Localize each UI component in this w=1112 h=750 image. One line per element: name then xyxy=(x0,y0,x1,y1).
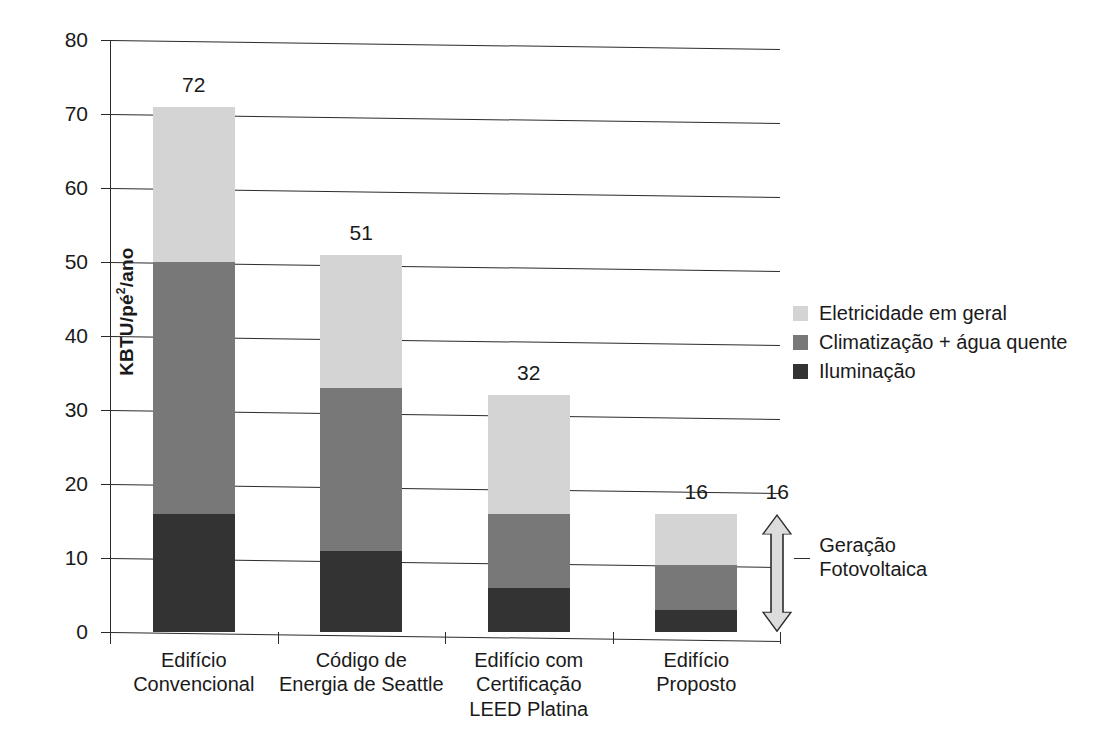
pv-tick-mark xyxy=(794,558,810,559)
category-label-line: LEED Platina xyxy=(434,697,624,721)
plot-area: 72513216 EdifícioConvencionalCódigo deEn… xyxy=(110,40,780,632)
chart-canvas: KBTU/pé2/ano 01020304050607080 72513216 … xyxy=(0,0,1112,750)
bar-segment[interactable] xyxy=(488,395,570,513)
y-axis-tick xyxy=(101,336,110,337)
legend-item[interactable]: Iluminação xyxy=(793,361,1068,381)
bar-segment[interactable] xyxy=(655,514,737,566)
stacked-bar[interactable] xyxy=(655,514,737,632)
category-label-line: Proposto xyxy=(601,672,791,696)
stacked-bar[interactable] xyxy=(488,395,570,632)
stacked-bar[interactable] xyxy=(320,255,402,632)
x-axis-category-label: Edifício comCertificaçãoLEED Platina xyxy=(434,648,624,721)
legend-color-swatch xyxy=(793,306,808,321)
y-axis-tick-label: 80 xyxy=(28,29,88,50)
gridline xyxy=(110,40,780,50)
x-axis-tick xyxy=(613,632,614,644)
legend-item-label: Climatização + água quente xyxy=(819,332,1068,352)
y-axis-tick xyxy=(101,558,110,559)
bar-segment[interactable] xyxy=(488,514,570,588)
category-label-line: Energia de Seattle xyxy=(266,672,456,696)
y-axis-tick-label: 0 xyxy=(28,621,88,642)
bar-segment[interactable] xyxy=(320,388,402,551)
legend-item[interactable]: Eletricidade em geral xyxy=(793,303,1068,323)
pv-annotation-text-line: Geração xyxy=(819,533,927,557)
y-axis-tick-label: 70 xyxy=(28,103,88,124)
legend-item-label: Eletricidade em geral xyxy=(819,303,1007,323)
y-axis-tick-label: 60 xyxy=(28,177,88,198)
y-axis-tick xyxy=(101,262,110,263)
legend-item[interactable]: Climatização + água quente xyxy=(793,332,1068,352)
y-axis-tick-label: 10 xyxy=(28,547,88,568)
legend-item-label: Iluminação xyxy=(819,361,916,381)
category-label-line: Edifício xyxy=(99,648,289,672)
category-label-line: Edifício com xyxy=(434,648,624,672)
x-axis-category-label: Código deEnergia de Seattle xyxy=(266,648,456,697)
x-axis-tick xyxy=(110,632,111,644)
category-label-line: Convencional xyxy=(99,672,289,696)
bar-segment[interactable] xyxy=(655,610,737,632)
legend: Eletricidade em geralClimatização + água… xyxy=(793,303,1068,390)
y-axis-tick-label: 50 xyxy=(28,251,88,272)
y-axis-tick xyxy=(101,188,110,189)
bar-segment[interactable] xyxy=(320,551,402,632)
bar-segment[interactable] xyxy=(488,588,570,632)
bar-segment[interactable] xyxy=(655,565,737,609)
bar-segment[interactable] xyxy=(153,514,235,632)
legend-color-swatch xyxy=(793,364,808,379)
y-axis-tick xyxy=(101,632,110,633)
y-axis-tick xyxy=(101,484,110,485)
bar-total-label: 72 xyxy=(134,74,254,95)
double-headed-arrow-icon xyxy=(760,514,794,632)
pv-annotation-text: GeraçãoFotovoltaica xyxy=(819,533,927,582)
bar-segment[interactable] xyxy=(153,262,235,514)
y-axis-tick xyxy=(101,114,110,115)
stacked-bar[interactable] xyxy=(153,107,235,632)
bar-segment[interactable] xyxy=(320,255,402,388)
x-axis-category-label: EdifícioConvencional xyxy=(99,648,289,697)
x-axis-category-label: EdifícioProposto xyxy=(601,648,791,697)
y-axis-tick xyxy=(101,410,110,411)
y-axis-tick-label: 30 xyxy=(28,399,88,420)
y-axis-tick-label: 40 xyxy=(28,325,88,346)
category-label-line: Código de xyxy=(266,648,456,672)
pv-value-label: 16 xyxy=(732,481,822,502)
bar-total-label: 51 xyxy=(301,222,421,243)
category-label-line: Certificação xyxy=(434,672,624,696)
x-axis-tick xyxy=(445,632,446,644)
bar-total-label: 32 xyxy=(469,362,589,383)
y-axis-tick-label: 20 xyxy=(28,473,88,494)
bar-segment[interactable] xyxy=(153,107,235,262)
pv-annotation-text-line: Fotovoltaica xyxy=(819,557,927,581)
category-label-line: Edifício xyxy=(601,648,791,672)
x-axis-tick xyxy=(278,632,279,644)
x-axis-tick xyxy=(780,632,781,644)
y-axis-tick xyxy=(101,40,110,41)
legend-color-swatch xyxy=(793,335,808,350)
